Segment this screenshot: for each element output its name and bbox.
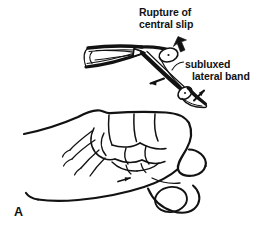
knuckle-fold-one — [140, 143, 166, 149]
subluxed-label-line-1: subluxed — [185, 59, 250, 71]
index-middle-separation — [112, 143, 140, 147]
thumb-tip-underside — [189, 150, 206, 167]
panel-letter-label: A — [14, 205, 23, 219]
proximal-phalanx-dorsal-edge — [88, 46, 142, 48]
proximal-cut-end-curve — [84, 48, 88, 67]
proximal-cut-end-inner-curve — [90, 52, 92, 64]
curled-finger-three — [115, 159, 142, 162]
dip-joint-center-dot — [184, 92, 186, 94]
protruding-finger-tip-a — [63, 150, 71, 157]
fist-detail-arrowhead — [125, 177, 131, 181]
subluxed-label-leader — [172, 62, 184, 70]
protruding-finger-stroke-d — [90, 158, 105, 176]
knuckle-fold-two — [155, 114, 158, 141]
finger-pad-outline-b — [137, 163, 159, 171]
hand-dorsum-outline — [24, 110, 189, 134]
pip-joint-center-dot — [167, 54, 169, 56]
protruding-finger-tip-c — [75, 168, 82, 175]
medical-line-drawing — [0, 0, 271, 233]
protruding-finger-tip-b — [64, 159, 73, 166]
lateral-band-direction-arrow — [150, 79, 164, 86]
figure-panel-a: Rupture of central slip subluxed lateral… — [0, 0, 271, 233]
rupture-label-line-2: central slip — [139, 19, 193, 31]
curled-finger-two — [101, 133, 106, 156]
subluxed-label-line-2: lateral band — [192, 71, 250, 83]
rupture-label-line-1: Rupture of — [137, 7, 193, 19]
protruding-finger-stroke-c — [81, 150, 99, 168]
index-finger-proximal-segment — [109, 115, 112, 145]
clenched-fist-drawing — [24, 110, 206, 214]
wrist-lower-edge — [26, 193, 38, 200]
protruding-finger-stroke-a — [70, 131, 92, 150]
finger-pad-outline-a — [112, 162, 137, 171]
index-finger-distal-crease — [134, 114, 137, 142]
curled-finger-five — [142, 160, 165, 163]
rupture-of-central-slip-label: Rupture of central slip — [137, 7, 193, 31]
subluxed-lateral-band-label: subluxed lateral band — [185, 59, 250, 83]
